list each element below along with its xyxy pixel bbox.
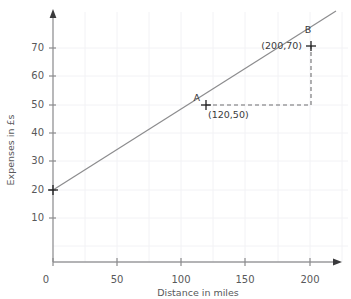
y-tick-label-10: 10 xyxy=(31,212,44,223)
y-tick-label-60: 60 xyxy=(31,70,44,81)
point-a-name: A xyxy=(194,92,201,103)
x-tick-label-200: 200 xyxy=(300,274,319,285)
y-axis-title: Expenses in £s xyxy=(5,114,16,185)
y-tick-label-50: 50 xyxy=(31,99,44,110)
point-a-label: (120,50) xyxy=(208,109,249,120)
x-tick-label-150: 150 xyxy=(235,274,254,285)
expenses-distance-chart: 70 60 50 40 30 20 10 0 50 100 150 200 Di… xyxy=(0,0,351,299)
chart-svg: 70 60 50 40 30 20 10 0 50 100 150 200 Di… xyxy=(0,0,351,299)
y-tick-label-20: 20 xyxy=(31,184,44,195)
y-tick-label-40: 40 xyxy=(31,127,44,138)
point-b-label: (200,70) xyxy=(261,40,302,51)
point-b-name: B xyxy=(305,24,312,35)
x-tick-label-100: 100 xyxy=(171,274,190,285)
x-axis-title: Distance in miles xyxy=(157,287,239,298)
x-tick-label-50: 50 xyxy=(111,274,124,285)
origin-label: 0 xyxy=(43,274,49,285)
y-tick-label-70: 70 xyxy=(31,42,44,53)
y-tick-label-30: 30 xyxy=(31,155,44,166)
